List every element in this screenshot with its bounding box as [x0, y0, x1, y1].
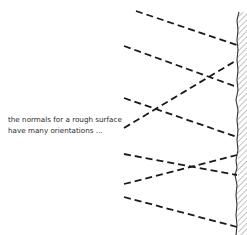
normal-line-2 — [124, 46, 237, 87]
surface-normals — [124, 11, 237, 227]
caption-line-2: have many orientations ... — [8, 125, 122, 136]
normal-line-6 — [124, 155, 237, 184]
normal-line-5 — [124, 154, 237, 175]
normal-line-7 — [124, 197, 237, 227]
caption: the normals for a rough surface have man… — [8, 114, 122, 136]
caption-line-1: the normals for a rough surface — [8, 114, 122, 125]
normal-line-1 — [136, 11, 237, 45]
normal-line-3 — [124, 98, 237, 137]
